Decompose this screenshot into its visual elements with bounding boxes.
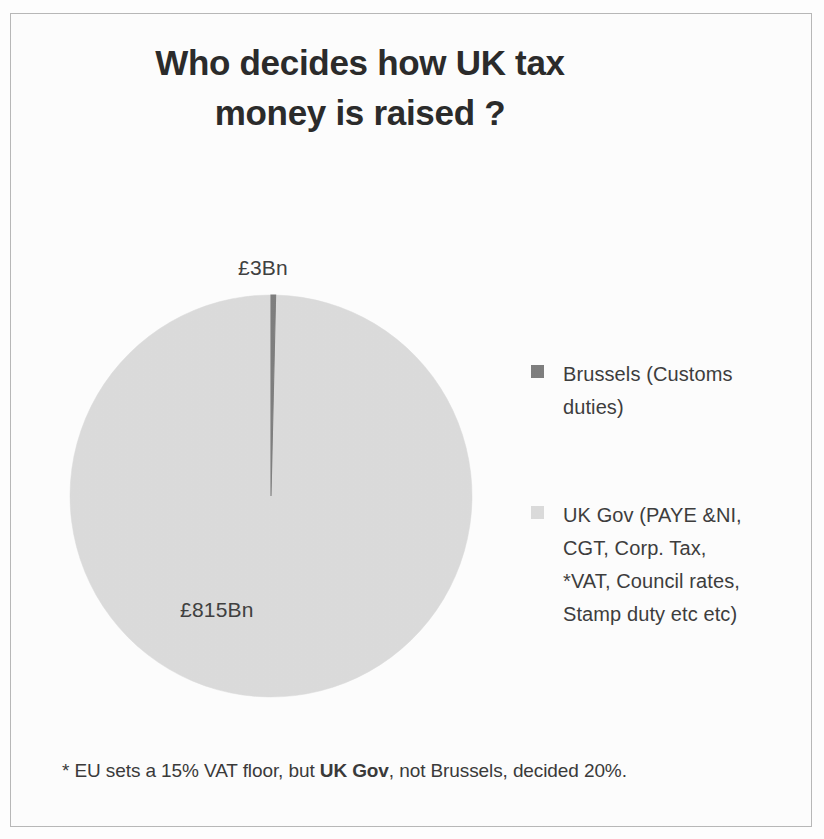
- legend-label-brussels: Brussels (Customs duties): [563, 358, 799, 424]
- legend-item-brussels[interactable]: Brussels (Customs duties): [531, 358, 799, 424]
- legend-item-uk-gov[interactable]: UK Gov (PAYE &NI, CGT, Corp. Tax, *VAT, …: [531, 499, 799, 631]
- legend-label-uk-gov-line-2: CGT, Corp. Tax,: [563, 532, 799, 565]
- chart-legend: Brussels (Customs duties) UK Gov (PAYE &…: [531, 358, 799, 631]
- legend-label-uk-gov: UK Gov (PAYE &NI, CGT, Corp. Tax, *VAT, …: [563, 499, 799, 631]
- legend-swatch-brussels-icon: [531, 365, 544, 378]
- footnote-emphasis: UK Gov: [320, 760, 389, 781]
- legend-label-brussels-line-1: Brussels (Customs: [563, 358, 799, 391]
- chart-footnote: * EU sets a 15% VAT floor, but UK Gov, n…: [62, 760, 627, 782]
- legend-swatch-uk-gov-icon: [531, 506, 544, 519]
- legend-label-uk-gov-line-4: Stamp duty etc etc): [563, 598, 799, 631]
- footnote-suffix: , not Brussels, decided 20%.: [389, 760, 627, 781]
- data-label-uk-gov: £815Bn: [180, 598, 254, 622]
- data-label-brussels: £3Bn: [238, 256, 288, 280]
- pie-chart-svg: [60, 285, 490, 715]
- footnote-prefix: * EU sets a 15% VAT floor, but: [62, 760, 320, 781]
- legend-label-uk-gov-line-3: *VAT, Council rates,: [563, 565, 799, 598]
- legend-label-brussels-line-2: duties): [563, 391, 799, 424]
- legend-label-uk-gov-line-1: UK Gov (PAYE &NI,: [563, 499, 799, 532]
